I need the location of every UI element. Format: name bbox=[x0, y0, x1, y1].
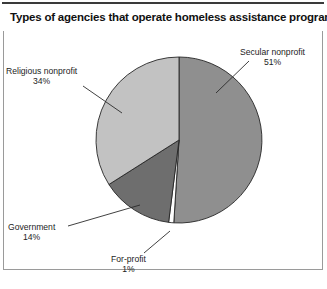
pie-slice-secular-nonprofit bbox=[174, 57, 262, 223]
pie-slices bbox=[96, 57, 262, 223]
leader-line-government bbox=[68, 205, 140, 226]
callout-for-profit: For-profit 1% bbox=[111, 254, 146, 274]
callout-secular-percent: 51% bbox=[240, 57, 305, 67]
source-note bbox=[58, 281, 288, 288]
callout-secular-nonprofit: Secular nonprofit 51% bbox=[240, 47, 305, 67]
callout-government-name: Government bbox=[8, 222, 55, 232]
callout-religious-nonprofit: Religious nonprofit 34% bbox=[6, 66, 77, 86]
callout-forprofit-name: For-profit bbox=[111, 254, 146, 264]
chart-figure: Types of agencies that operate homeless … bbox=[0, 0, 327, 289]
leader-line-forprofit bbox=[144, 231, 170, 253]
callout-religious-percent: 34% bbox=[6, 76, 77, 86]
callout-secular-name: Secular nonprofit bbox=[240, 47, 305, 57]
callout-religious-name: Religious nonprofit bbox=[6, 66, 77, 76]
pie-chart bbox=[0, 0, 327, 289]
callout-forprofit-percent: 1% bbox=[111, 264, 146, 274]
callout-government-percent: 14% bbox=[8, 232, 55, 242]
callout-government: Government 14% bbox=[8, 222, 55, 242]
